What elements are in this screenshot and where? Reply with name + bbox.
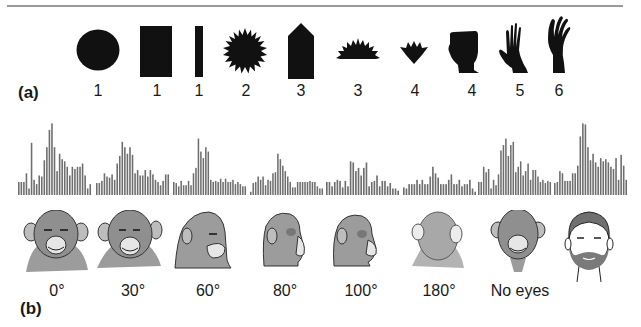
- condition-label-no-eyes: No eyes: [480, 282, 560, 300]
- histogram-bar: [104, 173, 106, 195]
- histogram-80deg: [250, 115, 324, 196]
- histogram-bar: [392, 188, 394, 195]
- histogram-bar: [109, 178, 111, 195]
- shape-number: 3: [343, 82, 373, 100]
- histogram-bar: [289, 182, 291, 195]
- chimp-80deg-head-icon: [258, 210, 308, 268]
- histogram-bar: [210, 180, 212, 195]
- histogram-bar: [495, 185, 497, 195]
- histogram-bar: [200, 152, 202, 195]
- histogram-bar: [190, 185, 192, 195]
- histogram-bar: [456, 184, 458, 195]
- fist-shape-icon: [447, 30, 481, 74]
- histogram-bar: [106, 177, 108, 195]
- top-rule: [313, 5, 623, 7]
- bar-shape-icon: [194, 26, 204, 78]
- histogram-bar: [21, 182, 23, 195]
- histogram-bar: [208, 152, 210, 195]
- histogram-bar: [280, 159, 282, 195]
- histogram-bar: [160, 185, 162, 195]
- histogram-bar: [240, 184, 242, 195]
- histogram-bar: [358, 168, 360, 195]
- histogram-bar: [183, 185, 185, 195]
- histogram-bar: [527, 164, 529, 195]
- histogram-bar: [615, 158, 617, 195]
- histogram-bar: [198, 139, 200, 195]
- histogram-bar: [522, 175, 524, 195]
- histogram-bar: [368, 186, 370, 195]
- chimp-60deg-head-icon: [173, 210, 233, 270]
- histogram-bar: [350, 161, 352, 195]
- histogram-bar: [625, 180, 627, 195]
- histogram-bar: [363, 168, 365, 195]
- histogram-bar: [61, 159, 63, 195]
- histogram-no-eyes: [478, 115, 552, 196]
- histogram-bar: [466, 184, 468, 195]
- histogram-bar: [389, 183, 391, 195]
- histogram-bar: [374, 181, 376, 195]
- histogram-bar: [147, 177, 149, 195]
- histogram-bar: [56, 171, 58, 195]
- histogram-bar: [557, 182, 559, 195]
- histogram-bar: [422, 180, 424, 195]
- histogram-bar: [155, 180, 157, 195]
- histogram-bar: [577, 166, 579, 195]
- histogram-bar: [33, 180, 35, 195]
- histogram-bar: [326, 182, 328, 195]
- histogram-bar: [119, 156, 121, 195]
- histogram-bar: [545, 183, 547, 195]
- histogram-bar: [51, 123, 53, 195]
- histogram-bar: [139, 175, 141, 195]
- histogram-bar: [429, 177, 431, 195]
- shape-number: 2: [231, 82, 261, 100]
- histogram-bar: [342, 187, 344, 195]
- histogram-bar: [384, 181, 386, 195]
- histogram-bar: [587, 147, 589, 195]
- histogram-bar: [111, 174, 113, 195]
- half-star-shape-icon: [336, 38, 380, 60]
- histogram-bar: [559, 171, 561, 195]
- histogram-bar: [54, 147, 56, 195]
- histogram-bar: [314, 182, 316, 195]
- histogram-bar: [567, 181, 569, 195]
- shape-number: 3: [286, 82, 316, 100]
- histogram-bar: [503, 145, 505, 195]
- chimp-no-eyes-head-icon: [490, 210, 546, 274]
- histogram-bar: [613, 169, 615, 195]
- histogram-bar: [96, 183, 98, 195]
- shape-number: 4: [457, 82, 487, 100]
- histogram-bar: [334, 182, 336, 195]
- histogram-bar: [395, 188, 397, 195]
- histogram-bar: [162, 181, 164, 195]
- histogram-bar: [257, 177, 259, 195]
- histogram-bar: [437, 178, 439, 195]
- condition-label-30deg: 30°: [93, 282, 173, 300]
- histogram-bar: [347, 186, 349, 195]
- histogram-bar: [44, 160, 46, 195]
- histogram-bar: [580, 136, 582, 195]
- histogram-bar: [232, 180, 234, 195]
- histogram-bar: [185, 185, 187, 195]
- histogram-bar: [366, 162, 368, 195]
- histogram-bar: [508, 156, 510, 195]
- histogram-bar: [150, 170, 152, 195]
- histogram-bar: [122, 142, 124, 195]
- histogram-bar: [304, 182, 306, 195]
- histogram-bar: [124, 147, 126, 195]
- histogram-bar: [64, 161, 66, 195]
- histogram-100deg: [326, 115, 400, 196]
- histogram-30deg: [96, 115, 170, 196]
- histogram-bar: [432, 167, 434, 195]
- histogram-bar: [167, 174, 169, 195]
- histogram-bar: [72, 167, 74, 195]
- histogram-bar: [459, 180, 461, 195]
- histogram-0deg: [18, 115, 92, 196]
- histogram-bar: [275, 172, 277, 195]
- histogram-bar: [235, 184, 237, 195]
- histogram-bar: [132, 155, 134, 195]
- histogram-bar: [435, 173, 437, 195]
- hand-shape-icon: [499, 22, 529, 74]
- histogram-bar: [270, 181, 272, 195]
- histogram-bar: [530, 180, 532, 195]
- histogram-bar: [387, 186, 389, 195]
